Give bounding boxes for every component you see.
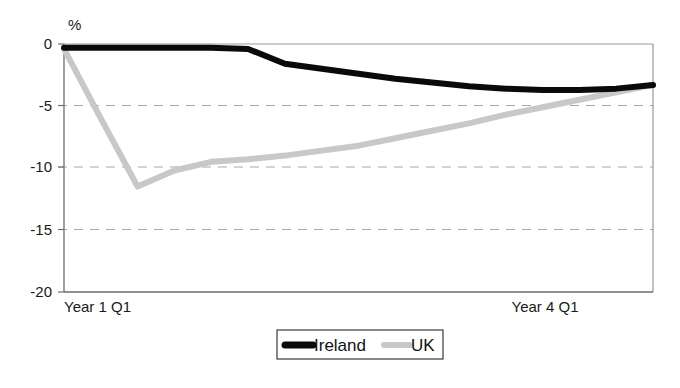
x-tick-label-year1q1: Year 1 Q1 [64,298,131,315]
chart-container: 0 -5 -10 -15 -20 % Year 1 Q1 Year 4 Q1 I… [0,0,680,388]
legend: Ireland UK [277,330,443,359]
y-axis-unit-label: % [68,16,81,33]
x-tick-label-year4q1: Year 4 Q1 [512,298,579,315]
y-tick-label-minus20: -20 [30,283,52,300]
legend-label-ireland: Ireland [314,336,366,355]
y-tick-label-minus5: -5 [39,97,52,114]
y-tick-label-0: 0 [44,35,52,52]
y-tick-marks [58,44,64,292]
y-tick-label-minus15: -15 [30,221,52,238]
legend-label-uk: UK [411,336,435,355]
line-chart: 0 -5 -10 -15 -20 % Year 1 Q1 Year 4 Q1 I… [0,0,680,388]
plot-background [64,44,653,292]
y-tick-label-minus10: -10 [30,158,52,175]
